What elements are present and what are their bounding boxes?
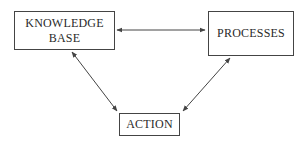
knowledge-base-label-line1: KNOWLEDGE — [25, 16, 103, 31]
action-label: ACTION — [126, 117, 173, 132]
knowledge-base-box: KNOWLEDGE BASE — [14, 11, 115, 50]
processes-label: PROCESSES — [217, 26, 285, 41]
arrow-processes-action — [183, 58, 230, 111]
arrow-knowledge-action — [72, 52, 117, 111]
knowledge-base-label-line2: BASE — [49, 31, 80, 46]
action-box: ACTION — [119, 113, 180, 136]
processes-box: PROCESSES — [208, 11, 294, 56]
